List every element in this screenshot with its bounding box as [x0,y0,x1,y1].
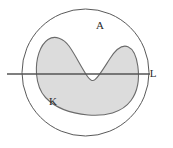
label-outer-region-a: A [96,19,104,31]
figure-container: A K L [0,0,173,148]
label-horizontal-line-l: L [150,67,157,79]
set-diagram-svg: A K L [0,0,173,148]
label-shaded-region-k: K [49,95,57,107]
